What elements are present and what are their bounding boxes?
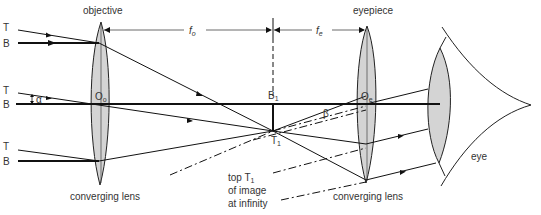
eye-edge-bottom [439,163,445,176]
ray-bot-T [18,150,99,161]
label-eyepiece: eyepiece [353,5,393,16]
construction-line-3 [273,148,366,173]
label-B-2: B [3,99,10,110]
ray-top-continue [273,131,366,180]
label-converging-lens-left: converging lens [70,191,140,202]
ray-bot-refracted [99,131,273,161]
emergent-ray-2 [366,129,428,144]
label-converging-lens-right: converging lens [333,191,403,202]
annotation-top-T1: top T1 [228,172,255,184]
ray-top-T [18,30,99,43]
label-T-1: T [3,22,9,33]
label-T-3: T [3,141,9,152]
label-T1: T1 [271,135,281,147]
construction-line-1 [170,131,273,175]
construction-line-2 [253,110,366,140]
annotation-at-infinity: at infinity [228,198,267,209]
label-beta: β [323,108,329,119]
telescope-ray-diagram: objective eyepiece converging lens conve… [0,0,541,215]
construction-line-beta [273,106,366,131]
label-alpha: α [36,94,42,105]
label-eye: eye [471,151,488,162]
label-B-1: B [3,38,10,49]
annotation-of-image: of image [228,185,267,196]
eye-outline [441,27,531,186]
eye-lens [428,48,451,163]
label-B-3: B [3,156,10,167]
label-B1: B1 [268,90,279,102]
ray-T1-to-eyepiece-mid [273,131,366,144]
eye-edge-top [440,37,446,48]
label-T-2: T [3,85,9,96]
label-objective: objective [83,5,123,16]
